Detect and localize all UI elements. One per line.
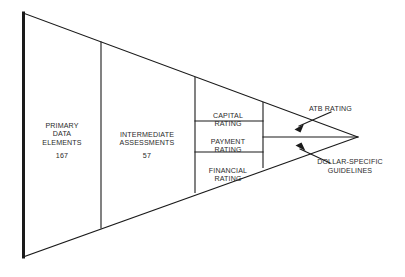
funnel-diagram: PRIMARY DATA ELEMENTS 167 INTERMEDIATE A… [0, 0, 405, 277]
funnel-top-edge [23, 13, 358, 137]
callout-label-dollar-specific-guidelines: DOLLAR-SPECIFIC GUIDELINES [300, 158, 400, 176]
funnel-bottom-edge [23, 137, 358, 257]
leader-line-atb-rating [299, 112, 331, 126]
arrowhead-atb-rating [295, 124, 305, 133]
funnel-shape-svg [0, 0, 405, 277]
callout-label-atb-rating: ATB RATING [309, 105, 389, 114]
